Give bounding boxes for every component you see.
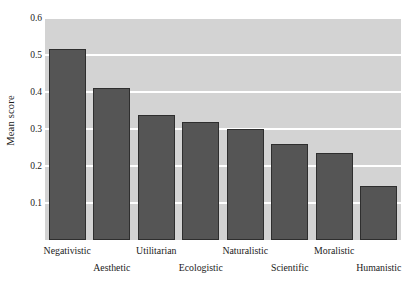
x-tick-label: Ecologistic	[179, 262, 223, 273]
x-tick-label: Utilitarian	[136, 245, 176, 256]
bars-layer	[45, 18, 401, 240]
y-tick-label: 0.2	[30, 161, 42, 171]
plot-area	[45, 18, 401, 240]
y-tick-label: 0.6	[30, 13, 42, 23]
y-axis-tick-labels: 0.10.20.30.40.50.6	[18, 0, 45, 294]
y-axis-title-text: Mean score	[5, 95, 16, 146]
bar	[138, 115, 175, 240]
bar	[227, 129, 264, 240]
bar	[93, 88, 130, 240]
y-tick-label: 0.1	[30, 198, 42, 208]
x-tick-label: Scientific	[271, 262, 309, 273]
x-tick-label: Aesthetic	[93, 262, 130, 273]
y-tick-label: 0.3	[30, 124, 42, 134]
bar	[49, 49, 86, 240]
y-axis-title: Mean score	[0, 0, 20, 240]
y-tick-label: 0.4	[30, 87, 42, 97]
x-axis-tick-labels: NegativisticAestheticUtilitarianEcologis…	[45, 240, 401, 294]
bar	[271, 144, 308, 240]
x-tick-label: Negativistic	[44, 245, 91, 256]
x-tick-label: Moralistic	[314, 245, 354, 256]
y-tick-label: 0.5	[30, 50, 42, 60]
bar	[182, 122, 219, 240]
x-tick-label: Naturalistic	[222, 245, 268, 256]
x-tick-label: Humanistic	[356, 262, 401, 273]
bar	[360, 186, 397, 240]
bar-chart-figure: Mean score 0.10.20.30.40.50.6 Negativist…	[0, 0, 418, 294]
bar	[316, 153, 353, 240]
